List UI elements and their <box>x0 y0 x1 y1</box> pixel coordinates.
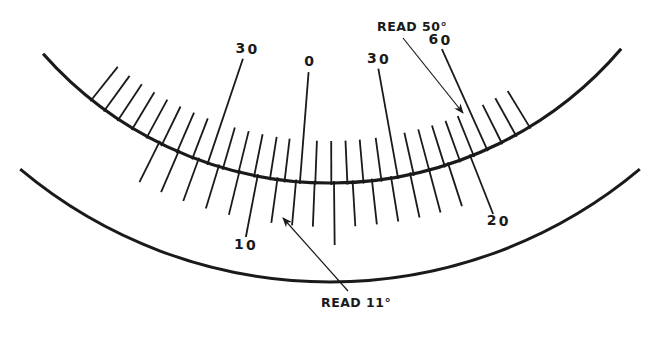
main-minor-tick <box>90 67 117 101</box>
main-minor-tick <box>458 116 474 157</box>
vernier-minor-tick <box>353 180 356 226</box>
vernier-minor-tick <box>206 165 219 209</box>
vernier-scale-label-digit: 0 <box>246 237 256 253</box>
main-scale-label-digit: 0 <box>248 41 258 57</box>
vernier-minor-tick <box>161 150 179 192</box>
main-minor-tick <box>508 91 531 129</box>
main-minor-tick <box>345 141 347 185</box>
vernier-minor-tick <box>313 181 315 227</box>
outer-arc <box>20 169 640 282</box>
vernier-scale-label: 2 <box>487 212 497 228</box>
vernier-major-tick <box>246 174 258 237</box>
main-minor-tick <box>446 121 461 162</box>
callout-label-read-50: READ 50° <box>377 19 447 34</box>
main-scale-label-digit: 0 <box>379 51 389 67</box>
main-minor-tick <box>270 137 277 180</box>
outer-arc-line <box>20 169 640 282</box>
callout-label-read-11: READ 11° <box>321 295 391 310</box>
main-scale-labels: 3003060 <box>236 31 451 69</box>
vernier-major-tick <box>470 154 493 214</box>
vernier-minor-tick <box>429 168 441 212</box>
main-scale-label: 3 <box>236 40 246 56</box>
vernier-minor-tick <box>448 162 462 206</box>
main-minor-tick <box>146 100 167 139</box>
vernier-minor-tick <box>372 179 377 225</box>
vernier-minor-tick <box>271 177 277 223</box>
main-scale-label: 0 <box>304 53 314 69</box>
main-scale-label: 3 <box>367 50 377 66</box>
main-minor-tick <box>360 140 364 184</box>
main-minor-tick <box>376 138 382 182</box>
main-minor-tick <box>432 125 445 167</box>
main-minor-tick <box>418 129 429 172</box>
main-minor-tick <box>238 131 248 174</box>
main-minor-tick <box>284 139 289 183</box>
main-major-tick <box>207 59 243 165</box>
vernier-minor-tick <box>292 179 296 225</box>
vernier-minor-tick <box>183 158 199 201</box>
callout-read-11: READ 11° <box>283 218 391 310</box>
vernier-minor-tick <box>139 141 160 182</box>
vernier-minor-tick <box>410 173 420 218</box>
main-scale-ticks <box>90 49 530 185</box>
vernier-scale-diagram: 3003060 1020 READ 50° READ 11° <box>0 0 656 338</box>
main-minor-tick <box>223 127 235 169</box>
main-minor-tick <box>161 106 180 146</box>
main-minor-tick <box>483 105 503 144</box>
main-minor-tick <box>404 133 414 176</box>
main-major-tick <box>378 69 398 179</box>
main-minor-tick <box>254 134 263 177</box>
vernier-minor-tick <box>391 176 398 221</box>
main-scale-label-digit: 0 <box>441 32 451 48</box>
vernier-scale-label-digit: 0 <box>499 213 509 229</box>
main-minor-tick <box>132 92 155 130</box>
main-minor-tick <box>104 76 130 112</box>
main-minor-tick <box>315 141 317 185</box>
main-minor-tick <box>192 118 208 159</box>
vernier-minor-tick <box>229 170 240 215</box>
main-minor-tick <box>176 113 194 153</box>
vernier-scale-label: 1 <box>234 236 244 252</box>
main-major-tick <box>300 72 309 184</box>
main-minor-tick <box>118 84 142 121</box>
vernier-major-tick <box>334 181 335 245</box>
vernier-scale-labels: 1020 <box>234 212 509 253</box>
main-minor-tick <box>495 98 516 136</box>
